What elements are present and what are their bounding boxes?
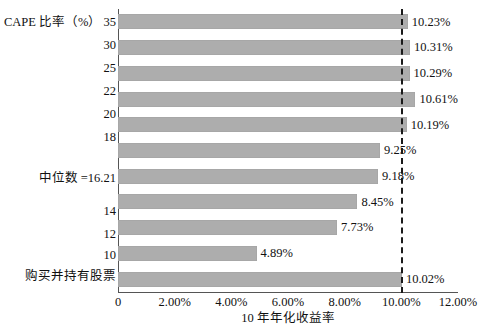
bar-14 [118,220,337,235]
bar-row: 10.23% [118,9,458,35]
bar-value-label: 7.73% [341,221,373,234]
bar-35 [118,14,408,29]
bar-16 [118,194,357,209]
x-tick-8: 8.00% [329,296,361,309]
bar-row: 10.29% [118,60,458,86]
y-tick-30: 30 [104,39,117,52]
x-tick-0: 0 [115,296,121,309]
y-tick-22: 22 [104,85,117,98]
bar-30 [118,40,410,55]
bar-chart: CAPE 比率（%） 35 30 25 22 20 18 中位数 =16.21 … [0,0,485,327]
bar-row: 10.61% [118,86,458,112]
bar-value-label: 9.25% [384,144,416,157]
y-tick-20: 20 [104,108,117,121]
bar-18 [118,143,380,158]
bar-row: 9.25% [118,138,458,164]
reference-line-10-percent [401,9,403,293]
y-tick-median: 中位数 =16.21 [39,172,116,185]
y-tick-18: 18 [104,131,117,144]
bar-12 [118,246,257,261]
x-tick-12: 12.00% [439,296,478,309]
x-tick-10: 10.00% [382,296,421,309]
bar-row: 4.89% [118,241,458,267]
bar-value-label: 10.29% [414,67,453,80]
bar-value-label: 10.23% [412,16,451,29]
plot-area: 10.23% 10.31% 10.29% 10.61% 10.19% 9.25%… [118,9,458,292]
bar-row: 9.18% [118,163,458,189]
x-axis-caption: 10 年年化收益率 [118,312,458,325]
x-axis-line [118,292,458,293]
y-tick-buy-and-hold: 购买并持有股票 [25,270,116,283]
bar-value-label: 10.61% [419,93,458,106]
bar-median [118,169,378,184]
x-tick-4: 4.00% [215,296,247,309]
bar-row: 8.45% [118,189,458,215]
bar-row: 10.19% [118,112,458,138]
y-tick-25: 25 [104,62,117,75]
bar-value-label: 4.89% [261,247,293,260]
bar-value-label: 10.31% [414,41,453,54]
y-tick-14: 14 [104,205,117,218]
x-tick-6: 6.00% [272,296,304,309]
x-tick-2: 2.00% [159,296,191,309]
y-tick-10: 10 [104,249,117,262]
bar-row: 10.31% [118,35,458,61]
bar-value-label: 10.02% [406,273,445,286]
bar-20 [118,117,407,132]
bar-value-label: 9.18% [382,170,414,183]
y-tick-12: 12 [104,228,117,241]
y-tick-35: 35 [104,16,117,29]
bar-25 [118,66,410,81]
bar-value-label: 8.45% [361,196,393,209]
bar-value-label: 10.19% [411,119,450,132]
bar-buy-and-hold [118,272,402,287]
bar-22 [118,92,415,107]
bar-row: 7.73% [118,215,458,241]
bar-row: 10.02% [118,266,458,292]
y-axis-tick-labels: 35 30 25 22 20 18 中位数 =16.21 14 12 10 购买… [0,0,116,327]
